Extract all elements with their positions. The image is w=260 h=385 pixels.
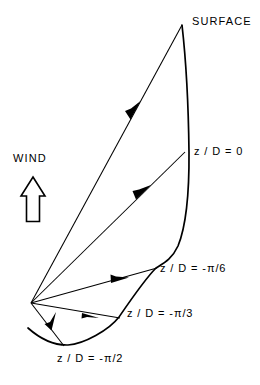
ekman-spiral-figure: SURFACE WIND z / D = 0 z / D = -π/6 z / … [0, 0, 260, 385]
vector-zd-pi2 [31, 303, 64, 346]
spiral-diagram [0, 0, 260, 385]
vector-zd-0 [31, 152, 185, 303]
label-depth-pi2: z / D = -π/2 [57, 353, 123, 364]
vector-zd-pi6 [31, 268, 157, 303]
vector-zd-pi3 [31, 303, 120, 319]
wind-arrow-icon [21, 177, 45, 222]
label-surface: SURFACE [192, 16, 252, 27]
arrowhead-zd-0 [133, 185, 152, 200]
label-depth-pi3: z / D = -π/3 [127, 308, 193, 319]
label-wind: WIND [13, 153, 47, 164]
label-depth-pi6: z / D = -π/6 [160, 263, 226, 274]
arrowhead-zd-pi2 [45, 312, 57, 331]
label-depth-0: z / D = 0 [194, 146, 243, 157]
arrowhead-zd-pi6 [111, 275, 130, 284]
